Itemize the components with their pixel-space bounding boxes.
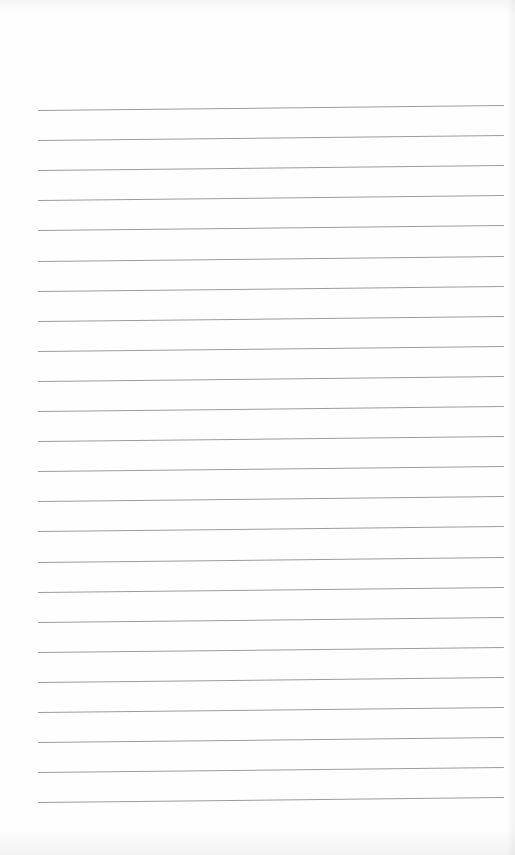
ruled-line bbox=[38, 105, 504, 111]
ruled-line bbox=[38, 466, 504, 472]
ruled-line bbox=[38, 256, 504, 262]
page-right-edge bbox=[507, 0, 515, 855]
ruled-line bbox=[38, 617, 504, 623]
ruled-line bbox=[38, 557, 504, 563]
ruled-lines bbox=[0, 0, 515, 855]
ruled-line bbox=[38, 376, 504, 382]
ruled-line bbox=[38, 797, 504, 803]
ruled-line bbox=[38, 526, 504, 532]
ruled-line bbox=[38, 346, 504, 352]
ruled-line bbox=[38, 587, 504, 593]
ruled-line bbox=[38, 436, 504, 442]
ruled-line bbox=[38, 135, 504, 141]
ruled-line bbox=[38, 165, 504, 171]
ruled-line bbox=[38, 677, 504, 683]
ruled-line bbox=[38, 767, 504, 773]
ruled-line bbox=[38, 406, 504, 412]
ruled-line bbox=[38, 286, 504, 292]
ruled-line bbox=[38, 496, 504, 502]
notebook-page bbox=[0, 0, 515, 855]
ruled-line bbox=[38, 195, 504, 201]
page-bottom-edge bbox=[0, 829, 515, 855]
ruled-line bbox=[38, 225, 504, 231]
ruled-line bbox=[38, 737, 504, 743]
ruled-line bbox=[38, 316, 504, 322]
ruled-line bbox=[38, 707, 504, 713]
ruled-line bbox=[38, 647, 504, 653]
